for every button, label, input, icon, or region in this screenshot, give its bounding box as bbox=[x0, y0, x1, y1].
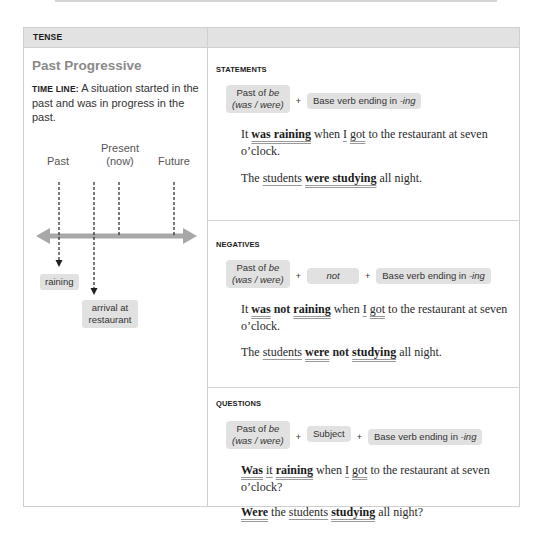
subject: students bbox=[289, 505, 328, 519]
timeline-future-label: Future bbox=[152, 155, 196, 168]
raining-arrow-icon bbox=[56, 260, 63, 267]
statements-title: STATEMENTS bbox=[216, 65, 267, 74]
box-text-be: be bbox=[269, 423, 280, 434]
verb: was raining bbox=[251, 127, 311, 141]
event-raining: raining bbox=[40, 274, 79, 290]
subject: students bbox=[263, 345, 302, 359]
subject: it bbox=[266, 463, 273, 477]
negative-example-1: It was not raining when I got to the res… bbox=[241, 301, 511, 335]
statement-example-2: The students were studying all night. bbox=[241, 170, 511, 187]
statement-example-1: It was raining when I got to the restaur… bbox=[241, 126, 511, 160]
formula-past-of-be: Past of be (was / were) bbox=[226, 85, 290, 113]
formula-base-verb-ing: Base verb ending in -ing bbox=[368, 429, 482, 445]
verb: got bbox=[352, 463, 367, 477]
verb: got bbox=[350, 127, 365, 141]
question-example-2: Were the students studying all night? bbox=[241, 504, 511, 521]
verb: was bbox=[251, 302, 270, 316]
plus-sign: + bbox=[296, 92, 301, 106]
text: when bbox=[313, 463, 345, 477]
timeline-left-arrowhead bbox=[36, 228, 50, 244]
box-text-was-were: (was / were) bbox=[232, 99, 284, 110]
plus-sign: + bbox=[365, 267, 370, 281]
box-text: Past of bbox=[236, 87, 268, 98]
box-text: Past of bbox=[236, 262, 268, 273]
box-text-was-were: (was / were) bbox=[232, 274, 284, 285]
formula-subject: Subject bbox=[307, 426, 351, 442]
box-text: Past of bbox=[236, 423, 268, 434]
box-text: Base verb ending in bbox=[382, 270, 469, 281]
box-text-be: be bbox=[269, 87, 280, 98]
box-text-was-were: (was / were) bbox=[232, 435, 284, 446]
verb: studying bbox=[331, 505, 375, 519]
text: It bbox=[241, 127, 251, 141]
plus-sign: + bbox=[357, 428, 362, 442]
negatives-formula: Past of be (was / were) + not + Base ver… bbox=[226, 260, 491, 288]
text: all night. bbox=[376, 171, 422, 185]
negation: not bbox=[274, 302, 291, 316]
box-text-ing: -ing bbox=[400, 95, 416, 106]
box-text-not: not bbox=[326, 270, 339, 281]
formula-not: not bbox=[307, 268, 359, 284]
box-text-subject: Subject bbox=[313, 428, 345, 439]
timeline-label: TIME LINE: bbox=[32, 84, 79, 94]
negatives-title: NEGATIVES bbox=[216, 240, 260, 249]
verb: were bbox=[305, 345, 329, 359]
event-arrival: arrival at restaurant bbox=[82, 300, 138, 328]
statements-section: STATEMENTS Past of be (was / were) + Bas… bbox=[208, 48, 520, 200]
formula-past-of-be: Past of be (was / were) bbox=[226, 421, 290, 449]
present-line1: Present bbox=[101, 142, 139, 154]
timeline-description: TIME LINE: A situation started in the pa… bbox=[32, 81, 202, 124]
plus-sign: + bbox=[296, 267, 301, 281]
text: when bbox=[311, 127, 343, 141]
event-arrival-line2: restaurant bbox=[89, 314, 132, 325]
subject: students bbox=[263, 171, 302, 185]
text: all night? bbox=[375, 505, 423, 519]
formula-base-verb-ing: Base verb ending in -ing bbox=[376, 268, 490, 284]
tense-title: Past Progressive bbox=[32, 58, 142, 73]
timeline-diagram bbox=[24, 168, 207, 288]
formula-base-verb-ing: Base verb ending in -ing bbox=[307, 93, 421, 109]
table-header: TENSE bbox=[24, 28, 519, 48]
verb: were studying bbox=[305, 171, 376, 185]
grammar-table: TENSE Past Progressive TIME LINE: A situ… bbox=[23, 27, 520, 507]
verb: Was bbox=[241, 463, 263, 477]
verb: Were bbox=[241, 505, 268, 519]
box-text: Base verb ending in bbox=[374, 431, 461, 442]
text: all night. bbox=[396, 345, 442, 359]
top-rule bbox=[55, 0, 497, 2]
questions-formula: Past of be (was / were) + Subject + Base… bbox=[226, 421, 482, 449]
verb: raining bbox=[276, 463, 313, 477]
arrival-arrow-icon bbox=[90, 288, 100, 298]
timeline-present-label: Present (now) bbox=[97, 142, 143, 168]
header-tense: TENSE bbox=[33, 28, 62, 47]
text: The bbox=[241, 345, 263, 359]
text: The bbox=[241, 171, 263, 185]
verb: studying bbox=[352, 345, 396, 359]
statements-formula: Past of be (was / were) + Base verb endi… bbox=[226, 85, 421, 113]
negatives-section: NEGATIVES Past of be (was / were) + not … bbox=[208, 220, 520, 370]
verb: raining bbox=[293, 302, 330, 316]
timeline-past-label: Past bbox=[38, 155, 78, 168]
box-text-be: be bbox=[269, 262, 280, 273]
timeline-right-arrowhead bbox=[183, 228, 197, 244]
formula-past-of-be: Past of be (was / were) bbox=[226, 260, 290, 288]
negation: not bbox=[332, 345, 349, 359]
negative-example-2: The students were not studying all night… bbox=[241, 344, 511, 361]
questions-section: QUESTIONS Past of be (was / were) + Subj… bbox=[208, 387, 520, 527]
box-text: Base verb ending in bbox=[313, 95, 400, 106]
plus-sign: + bbox=[296, 428, 301, 442]
text: when bbox=[331, 302, 363, 316]
box-text-ing: -ing bbox=[469, 270, 485, 281]
question-example-1: Was it raining when I got to the restaur… bbox=[241, 462, 511, 496]
text: It bbox=[241, 302, 251, 316]
box-text-ing: -ing bbox=[461, 431, 477, 442]
text: the bbox=[268, 505, 289, 519]
verb: got bbox=[370, 302, 385, 316]
event-arrival-line1: arrival at bbox=[92, 302, 128, 313]
present-line2: (now) bbox=[106, 155, 134, 167]
questions-title: QUESTIONS bbox=[216, 399, 261, 408]
